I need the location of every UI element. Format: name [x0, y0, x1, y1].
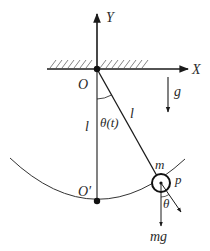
vertical-length-label: l — [85, 119, 89, 134]
angle-arc — [97, 95, 112, 99]
mass-label: m — [155, 157, 164, 172]
origin-point — [94, 66, 100, 72]
rod-length-label: l — [130, 106, 134, 121]
weight-label: mg — [150, 229, 167, 244]
y-axis-label: Y — [106, 10, 116, 25]
gravity-label: g — [174, 84, 181, 99]
small-angle-label: θ — [163, 196, 170, 211]
origin-label: O — [78, 77, 88, 92]
angle-label: θ(t) — [100, 115, 119, 130]
lowest-point — [94, 198, 100, 204]
pendulum-diagram: Y X O g l l θ(t) O′ m p θ mg — [0, 0, 210, 251]
point-label: p — [174, 172, 182, 187]
x-axis-label: X — [191, 62, 201, 77]
lowest-point-label: O′ — [78, 184, 92, 199]
